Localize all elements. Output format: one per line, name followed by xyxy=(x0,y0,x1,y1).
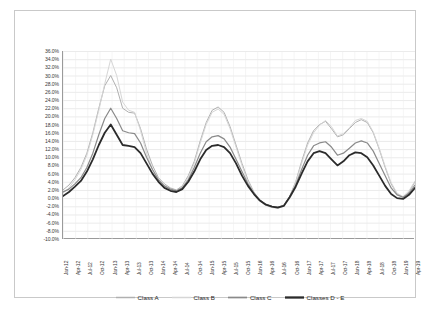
x-tick-label: Jul-17 xyxy=(331,262,336,275)
legend-line-icon xyxy=(116,295,135,300)
x-tick-label: Oct-13 xyxy=(149,261,154,275)
x-tick-label: Apr-15 xyxy=(222,261,227,275)
chart-legend: Class AClass BClass CClasses D - E xyxy=(29,289,430,305)
y-tick-label: 18.0% xyxy=(45,122,59,128)
y-tick-label: 10.0% xyxy=(45,154,59,160)
y-tick-label: 14.0% xyxy=(45,138,59,144)
y-tick-label: 0.0% xyxy=(48,195,59,201)
legend-label: Class A xyxy=(138,294,159,301)
x-tick-label: Jan-19 xyxy=(404,261,409,275)
y-tick-label: 2.0% xyxy=(48,187,59,193)
legend-line-icon xyxy=(172,295,191,300)
legend-line-icon xyxy=(285,295,304,300)
x-tick-label: Oct-15 xyxy=(246,261,251,275)
x-tick-label: Jul-13 xyxy=(137,262,142,275)
y-tick-label: -10.0% xyxy=(43,236,59,242)
chart-panel: 36.0%34.0%32.0%30.0%28.0%26.0%24.0%22.0%… xyxy=(14,10,416,298)
x-tick-label: Jul-14 xyxy=(185,262,190,275)
y-axis-labels: 36.0%34.0%32.0%30.0%28.0%26.0%24.0%22.0%… xyxy=(15,51,59,239)
y-tick-label: 6.0% xyxy=(48,171,59,177)
x-tick-label: Apr-17 xyxy=(319,261,324,275)
y-tick-label: -8.0% xyxy=(46,228,59,234)
y-tick-label: 28.0% xyxy=(45,81,59,87)
y-tick-label: 20.0% xyxy=(45,113,59,119)
legend-label: Classes D - E xyxy=(307,294,345,301)
x-tick-label: Jul-12 xyxy=(88,262,93,275)
y-tick-label: 22.0% xyxy=(45,105,59,111)
legend-label: Class B xyxy=(194,294,215,301)
plot-area xyxy=(62,51,414,239)
legend-line-icon xyxy=(228,295,247,300)
x-tick-label: Apr-19 xyxy=(416,261,421,275)
series-lines xyxy=(63,51,415,239)
x-tick-label: Apr-12 xyxy=(76,261,81,275)
x-tick-label: Oct-14 xyxy=(198,261,203,275)
y-tick-label: 16.0% xyxy=(45,130,59,136)
x-tick-label: Jan-15 xyxy=(210,261,215,275)
x-tick-label: Jan-12 xyxy=(64,261,69,275)
legend-item[interactable]: Classes D - E xyxy=(285,294,345,301)
y-tick-label: 12.0% xyxy=(45,146,59,152)
x-tick-label: Jan-18 xyxy=(355,261,360,275)
chart-screenshot: 36.0%34.0%32.0%30.0%28.0%26.0%24.0%22.0%… xyxy=(0,0,430,309)
x-tick-label: Jan-14 xyxy=(161,261,166,275)
x-tick-label: Apr-18 xyxy=(367,261,372,275)
y-tick-label: 34.0% xyxy=(45,56,59,62)
plot-frame xyxy=(62,51,414,239)
x-tick-label: Jul-16 xyxy=(282,262,287,275)
y-tick-label: 36.0% xyxy=(45,48,59,54)
y-tick-label: -2.0% xyxy=(46,203,59,209)
x-tick-label: Jan-13 xyxy=(113,261,118,275)
x-tick-label: Apr-14 xyxy=(173,261,178,275)
legend-item[interactable]: Class C xyxy=(228,294,272,301)
x-tick-label: Jan-17 xyxy=(307,261,312,275)
y-tick-label: 26.0% xyxy=(45,89,59,95)
x-tick-label: Apr-13 xyxy=(125,261,130,275)
x-tick-label: Jul-15 xyxy=(234,262,239,275)
y-tick-label: 32.0% xyxy=(45,64,59,70)
y-tick-label: -6.0% xyxy=(46,220,59,226)
y-tick-label: 24.0% xyxy=(45,97,59,103)
legend-label: Class C xyxy=(250,294,272,301)
x-tick-label: Apr-16 xyxy=(270,261,275,275)
x-tick-label: Oct-17 xyxy=(343,261,348,275)
y-tick-label: 30.0% xyxy=(45,73,59,79)
legend-item[interactable]: Class A xyxy=(116,294,159,301)
x-tick-label: Jul-18 xyxy=(380,262,385,275)
x-tick-label: Oct-12 xyxy=(100,261,105,275)
y-tick-label: -4.0% xyxy=(46,211,59,217)
y-tick-label: 4.0% xyxy=(48,179,59,185)
x-axis-labels: Jan-12Apr-12Jul-12Oct-12Jan-13Apr-13Jul-… xyxy=(62,240,414,278)
legend-item[interactable]: Class B xyxy=(172,294,215,301)
x-tick-label: Oct-18 xyxy=(392,261,397,275)
x-tick-label: Oct-16 xyxy=(295,261,300,275)
x-tick-label: Jan-16 xyxy=(258,261,263,275)
y-tick-label: 8.0% xyxy=(48,162,59,168)
